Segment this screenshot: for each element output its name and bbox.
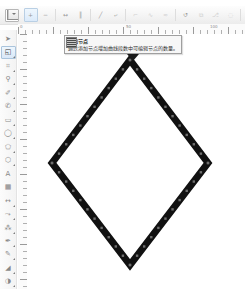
node-square-icon[interactable] [178, 124, 180, 126]
freehand-pencil-icon: ✐ [5, 90, 11, 97]
flyout-triangle-icon[interactable] [13, 110, 15, 112]
node-square-icon[interactable] [72, 134, 74, 136]
flyout-triangle-icon[interactable] [13, 151, 15, 153]
tool-shape-edit[interactable]: ◱ [1, 46, 16, 59]
node-square-icon[interactable] [150, 87, 152, 89]
node-square-icon[interactable] [178, 199, 180, 201]
make-node-cusp-button[interactable]: ⌐ [129, 8, 143, 22]
tool-ellipse[interactable]: ◯ [1, 127, 16, 140]
tool-rectangle[interactable]: ▭ [1, 114, 16, 127]
node-square-icon[interactable] [157, 96, 159, 98]
node-square-icon[interactable] [136, 255, 138, 257]
node-square-icon[interactable] [157, 227, 159, 229]
tool-basic-shapes[interactable]: ⬡ [1, 154, 16, 167]
tool-polygon[interactable]: ⬠ [1, 141, 16, 154]
node-square-icon[interactable] [143, 78, 145, 80]
tool-interactive-fill[interactable]: ◑ [1, 275, 16, 288]
node-type-combo[interactable] [5, 9, 19, 22]
node-square-icon[interactable] [58, 171, 60, 173]
node-square-icon[interactable] [186, 190, 188, 192]
flyout-triangle-icon[interactable] [13, 137, 15, 139]
drawing-canvas[interactable] [27, 34, 245, 289]
flyout-triangle-icon[interactable] [13, 218, 15, 220]
flyout-triangle-icon[interactable] [13, 245, 15, 247]
node-square-icon[interactable] [186, 134, 188, 136]
add-node-icon[interactable] [66, 37, 77, 48]
tool-pick[interactable]: ➤ [1, 33, 16, 46]
tool-zoom[interactable]: ⚲ [1, 73, 16, 86]
flyout-triangle-icon[interactable] [13, 70, 15, 72]
delete-node-button[interactable]: − [39, 8, 53, 22]
make-node-symmetrical-button[interactable]: ≈ [159, 8, 173, 22]
tool-blend[interactable]: ⁂ [1, 222, 16, 235]
node-square-icon[interactable] [115, 78, 117, 80]
tool-smart-fill[interactable]: ✆ [1, 100, 16, 113]
node-square-icon[interactable] [100, 96, 102, 98]
node-square-icon[interactable] [129, 264, 131, 266]
node-square-icon[interactable] [193, 143, 195, 145]
node-square-icon[interactable] [72, 190, 74, 192]
convert-to-curve-button[interactable]: ⤶ [109, 8, 123, 22]
node-square-icon[interactable] [65, 180, 67, 182]
node-markers[interactable] [51, 59, 209, 266]
break-curve-button[interactable]: ║ [74, 8, 88, 22]
node-square-icon[interactable] [200, 171, 202, 173]
node-square-icon[interactable] [200, 152, 202, 154]
flyout-triangle-icon[interactable] [13, 205, 15, 207]
node-square-icon[interactable] [171, 115, 173, 117]
flyout-triangle-icon[interactable] [13, 124, 15, 126]
diamond-path[interactable] [27, 34, 245, 289]
node-square-icon[interactable] [136, 68, 138, 70]
node-square-icon[interactable] [171, 208, 173, 210]
extract-subpath-button[interactable]: ⎇ [209, 8, 223, 22]
node-square-icon[interactable] [100, 227, 102, 229]
flyout-triangle-icon[interactable] [13, 285, 15, 287]
node-square-icon[interactable] [86, 115, 88, 117]
node-square-icon[interactable] [122, 68, 124, 70]
node-square-icon[interactable] [193, 180, 195, 182]
node-square-icon[interactable] [86, 208, 88, 210]
tool-outline[interactable]: ✎ [1, 249, 16, 262]
node-square-icon[interactable] [79, 199, 81, 201]
convert-to-line-button[interactable]: ╱ [94, 8, 108, 22]
flyout-triangle-icon[interactable] [13, 164, 15, 166]
node-square-icon[interactable] [143, 245, 145, 247]
join-two-nodes-button[interactable]: ↔ [59, 8, 73, 22]
tool-text[interactable]: A [1, 168, 16, 181]
pick-arrow-icon: ➤ [5, 36, 11, 43]
node-square-icon[interactable] [122, 255, 124, 257]
flyout-triangle-icon[interactable] [13, 97, 15, 99]
reverse-direction-button[interactable]: ↺ [179, 8, 193, 22]
node-square-icon[interactable] [164, 106, 166, 108]
node-square-icon[interactable] [65, 143, 67, 145]
node-square-icon[interactable] [93, 217, 95, 219]
auto-close-curve-button[interactable]: ◌ [224, 8, 238, 22]
stretch-scale-nodes-button[interactable]: ⤡ [244, 8, 246, 22]
flyout-triangle-icon[interactable] [13, 258, 15, 260]
chevron-down-icon[interactable] [8, 10, 18, 19]
make-node-smooth-button[interactable]: ∿ [144, 8, 158, 22]
flyout-triangle-icon[interactable] [13, 83, 15, 85]
tool-fill[interactable]: ◢ [1, 262, 16, 275]
extend-curve-to-close-button[interactable]: ⧉ [194, 8, 208, 22]
flyout-triangle-icon[interactable] [13, 232, 15, 234]
add-node-button[interactable]: + [24, 8, 38, 22]
tool-color-eyedropper[interactable]: ✒ [1, 235, 16, 248]
node-square-icon[interactable] [115, 245, 117, 247]
tool-table[interactable]: ▦ [1, 181, 16, 194]
node-square-icon[interactable] [58, 152, 60, 154]
node-square-icon[interactable] [150, 236, 152, 238]
node-square-icon[interactable] [79, 124, 81, 126]
tool-crop[interactable]: ⌗ [1, 60, 16, 73]
node-square-icon[interactable] [51, 162, 53, 164]
tool-freehand[interactable]: ✐ [1, 87, 16, 100]
flyout-triangle-icon[interactable] [13, 272, 15, 274]
node-square-icon[interactable] [164, 217, 166, 219]
tool-connector[interactable]: ⤳ [1, 208, 16, 221]
node-square-icon[interactable] [93, 106, 95, 108]
flyout-triangle-icon[interactable] [13, 56, 15, 58]
node-square-icon[interactable] [108, 236, 110, 238]
node-square-icon[interactable] [207, 162, 209, 164]
tool-dimension[interactable]: ↔ [1, 195, 16, 208]
node-square-icon[interactable] [108, 87, 110, 89]
